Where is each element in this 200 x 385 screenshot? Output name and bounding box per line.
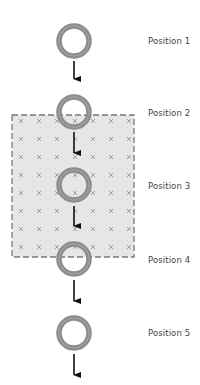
position-label-3: Position 3 bbox=[148, 181, 190, 191]
ring-icon-1 bbox=[59, 26, 89, 56]
field-boundary bbox=[12, 115, 134, 257]
position-label-4: Position 4 bbox=[148, 255, 190, 265]
diagram-canvas: Position 1 Position 2 Position 3 Positio… bbox=[0, 0, 200, 385]
position-label-1: Position 1 bbox=[148, 36, 190, 46]
magnetic-field-region bbox=[12, 115, 134, 257]
ring-icon-5 bbox=[59, 318, 89, 348]
position-label-2: Position 2 bbox=[148, 108, 190, 118]
position-label-5: Position 5 bbox=[148, 328, 190, 338]
